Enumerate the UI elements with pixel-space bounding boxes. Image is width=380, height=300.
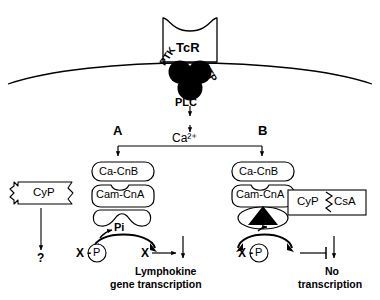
ca-cnb-label-left: Ca-CnB	[99, 166, 138, 177]
unknown-target-label: ?	[37, 252, 44, 264]
ca-cnb-label-right: Ca-CnB	[239, 166, 278, 177]
branch-label-b: B	[258, 124, 267, 137]
csa-label: CsA	[334, 196, 356, 208]
no-transcription-line2: transcription	[298, 279, 362, 290]
plc-label: PLC	[175, 97, 197, 108]
cam-cna-label-right: Cam-CnA	[236, 189, 284, 200]
substrate-free-x: X	[141, 247, 149, 259]
phosphate-p-left: P	[93, 247, 100, 258]
pi-label: Pi	[114, 222, 124, 233]
no-transcription-line1: No	[325, 266, 339, 277]
phosphate-p-right: P	[255, 247, 262, 258]
lymphokine-line1: Lymphokine	[135, 266, 196, 277]
tcr-label: TcR	[176, 41, 200, 54]
calcium-label: Ca²⁺	[172, 132, 197, 144]
cam-cna-label-left: Cam-CnA	[96, 189, 144, 200]
cyp-label-free: CyP	[33, 187, 55, 199]
branch-label-a: A	[113, 124, 122, 137]
lymphokine-line2: gene transcription	[110, 279, 202, 290]
pathway-diagram: TcR PTK PTP PLC Ca²⁺ A B Ca-CnB Cam-CnA …	[0, 0, 380, 300]
substrate-phospho-x-left: X -	[76, 247, 91, 259]
branch-bracket	[118, 146, 262, 156]
substrate-phospho-x-right: X -	[238, 247, 253, 259]
cyp-label-inhibitor: CyP	[297, 196, 319, 208]
